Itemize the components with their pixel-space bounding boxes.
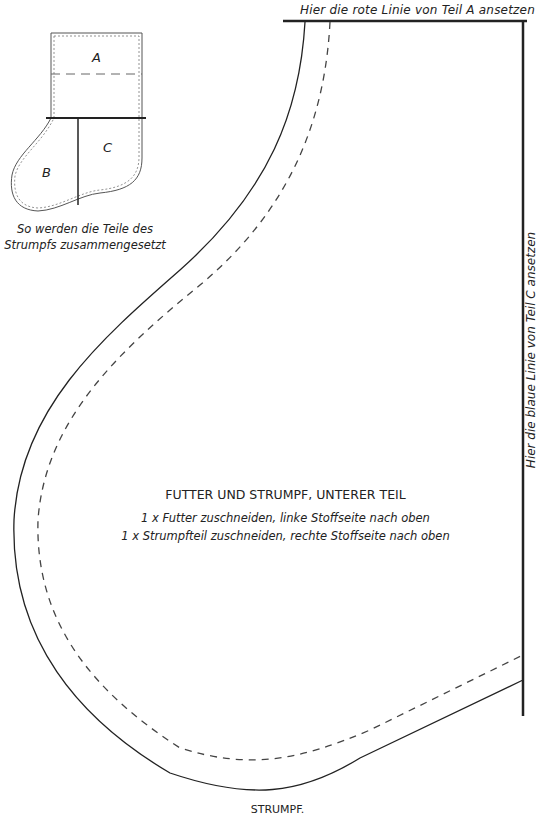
top-attach-label: Hier die rote Linie von Teil A ansetzen [300,3,535,17]
assembly-diagram [11,33,146,211]
footer-label: STRUMPF. [0,803,541,816]
seam-line [38,22,523,760]
diagram-caption-line2: Strumpfs zusammengesetzt [0,238,170,252]
pattern-title: FUTTER UND STRUMPF, UNTERER TEIL [0,487,541,502]
diagram-part-a: A [92,50,101,65]
diagram-part-b: B [42,165,51,180]
side-attach-label: Hier die blaue Linie von Teil C ansetzen [524,232,538,468]
pattern-drawing [0,0,541,821]
instruction-stocking: 1 x Strumpfteil zuschneiden, rechte Stof… [0,529,541,543]
outer-cut-line [14,22,523,790]
diagram-caption-line1: So werden die Teile des [0,222,170,236]
instruction-lining: 1 x Futter zuschneiden, linke Stoffseite… [0,511,541,525]
diagram-part-c: C [103,140,112,155]
